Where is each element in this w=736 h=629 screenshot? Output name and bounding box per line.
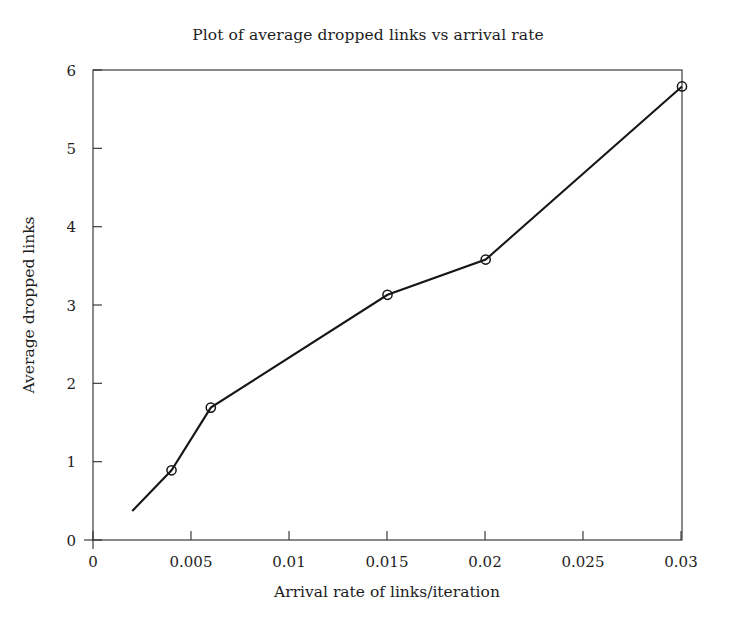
x-tick-label-1: 0.005 — [170, 553, 213, 571]
y-tick-label-5: 5 — [66, 140, 76, 158]
y-tick-label-2: 2 — [66, 375, 76, 393]
y-axis-title: Average dropped links — [20, 216, 38, 394]
x-axis-title: Arrival rate of links/iteration — [273, 583, 500, 601]
x-tick-label-0: 0 — [88, 553, 98, 571]
data-series-average-dropped-links — [132, 82, 686, 511]
y-axis-tick-labels: 0 1 2 3 4 5 6 — [66, 62, 76, 550]
y-tick-label-0: 0 — [66, 532, 76, 550]
x-tick-label-2: 0.01 — [272, 553, 305, 571]
plot-canvas: 0 0.005 0.01 0.015 0.02 0.025 0.03 0 1 2… — [0, 0, 736, 629]
y-tick-label-1: 1 — [66, 453, 76, 471]
x-tick-label-6: 0.03 — [664, 553, 697, 571]
x-tick-label-5: 0.025 — [562, 553, 605, 571]
x-tick-label-4: 0.02 — [468, 553, 501, 571]
y-tick-label-3: 3 — [66, 297, 76, 315]
plot-frame — [93, 70, 682, 540]
series-line — [132, 86, 682, 511]
y-tick-label-6: 6 — [66, 62, 76, 80]
x-tick-label-3: 0.015 — [366, 553, 409, 571]
chart-figure: Plot of average dropped links vs arrival… — [0, 0, 736, 629]
series-markers — [167, 82, 687, 475]
x-axis-tick-labels: 0 0.005 0.01 0.015 0.02 0.025 0.03 — [88, 553, 697, 571]
y-tick-label-4: 4 — [66, 218, 76, 236]
